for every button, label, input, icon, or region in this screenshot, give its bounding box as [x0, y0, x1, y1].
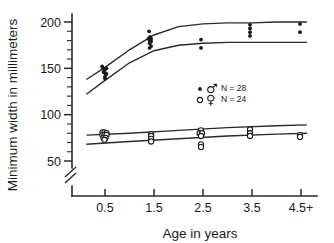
data-point-female: [198, 145, 203, 150]
y-tick-label: 100: [40, 108, 61, 122]
y-tick-label: 200: [40, 16, 61, 30]
data-point-female: [247, 133, 252, 138]
data-point-male: [298, 22, 302, 26]
data-point-male: [199, 46, 203, 50]
data-point-male: [147, 29, 151, 33]
data-point-female: [297, 134, 302, 139]
legend-marker-male: [198, 87, 202, 91]
legend-marker-female: [197, 97, 202, 102]
data-point-male: [105, 66, 109, 70]
data-point-male: [248, 34, 252, 38]
y-axis: 20015010050: [40, 14, 76, 196]
x-tick-label: 3.5: [243, 201, 260, 215]
data-points: [100, 22, 303, 150]
scatter-chart: 20015010050 0.51.52.53.54.5+ ♂N = 28♀N =…: [0, 0, 334, 243]
x-tick-label: 4.5+: [289, 201, 314, 215]
data-point-male: [148, 46, 152, 50]
x-tick-label: 2.5: [194, 201, 211, 215]
data-point-female: [102, 137, 107, 142]
legend-label: N = 28: [221, 83, 247, 93]
fit-curves: [86, 22, 307, 144]
fit-curve-female: [86, 133, 307, 144]
x-axis-title: Age in years: [162, 226, 237, 241]
data-point-male: [199, 38, 203, 42]
fit-curve-male: [86, 42, 307, 94]
chart-legend: ♂N = 28♀N = 24: [197, 81, 246, 107]
data-point-male: [248, 23, 252, 27]
x-tick-label: 1.5: [145, 201, 162, 215]
legend-label: N = 24: [221, 94, 247, 104]
y-axis-title: Minimum width in millimeters: [5, 18, 20, 191]
legend-symbol: ♀: [206, 92, 216, 107]
y-tick-label: 150: [40, 62, 61, 76]
data-point-female: [149, 139, 154, 144]
x-axis: 0.51.52.53.54.5+: [72, 189, 317, 215]
data-point-female: [198, 133, 203, 138]
y-tick-label: 50: [47, 155, 61, 169]
data-point-male: [248, 30, 252, 34]
fit-curve-male: [86, 22, 307, 80]
data-point-male: [103, 77, 107, 81]
x-tick-label: 0.5: [96, 201, 113, 215]
chart-figure: 20015010050 0.51.52.53.54.5+ ♂N = 28♀N =…: [0, 0, 334, 243]
data-point-male: [298, 30, 302, 34]
data-point-male: [248, 27, 252, 31]
